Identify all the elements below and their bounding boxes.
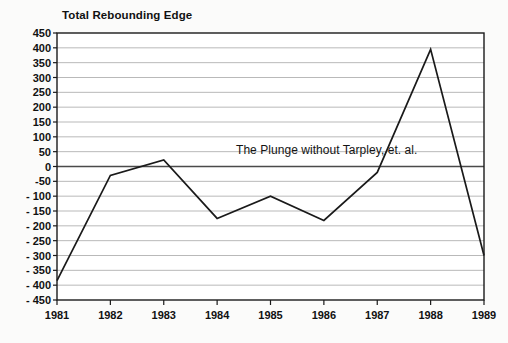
y-axis-tick-label: - 300: [26, 250, 51, 262]
y-axis-tick-label: 0: [45, 161, 51, 173]
y-axis-tick-label: 50: [39, 146, 51, 158]
y-axis-tick-label: 200: [33, 101, 51, 113]
y-axis-tick-label: - 400: [26, 279, 51, 291]
x-axis-tick-label: 1984: [205, 309, 229, 321]
y-axis-tick-label: 250: [33, 86, 51, 98]
y-axis-tick-label: 350: [33, 57, 51, 69]
x-axis-tick-label: 1982: [98, 309, 122, 321]
y-axis-tick-label: - 350: [26, 264, 51, 276]
x-axis-tick-label: 1983: [152, 309, 176, 321]
y-axis-tick-label: - 250: [26, 235, 51, 247]
y-axis-tick-label: - 150: [26, 205, 51, 217]
x-axis-tick-label: 1985: [258, 309, 282, 321]
y-axis-tick-label: 100: [33, 131, 51, 143]
plot-area: [0, 0, 508, 343]
y-axis-tick-label: - 200: [26, 220, 51, 232]
x-axis-tick-label: 1986: [312, 309, 336, 321]
y-axis-tick-label: - 450: [26, 294, 51, 306]
y-axis-tick-label: 400: [33, 42, 51, 54]
x-axis-tick-label: 1988: [418, 309, 442, 321]
y-axis-tick-label: - 100: [26, 190, 51, 202]
chart-figure: Total Rebounding Edge The Plunge without…: [0, 0, 508, 343]
y-axis-tick-label: -50: [35, 175, 51, 187]
y-axis-tick-label: 300: [33, 72, 51, 84]
chart-annotation: The Plunge without Tarpley, et. al.: [236, 143, 417, 157]
y-axis-tick-label: 150: [33, 116, 51, 128]
y-axis-tick-label: 450: [33, 27, 51, 39]
x-axis-tick-label: 1989: [472, 309, 496, 321]
chart-title: Total Rebounding Edge: [62, 9, 192, 21]
x-axis-tick-label: 1981: [45, 309, 69, 321]
x-axis-tick-label: 1987: [365, 309, 389, 321]
x-axis-ticks: [57, 300, 484, 305]
